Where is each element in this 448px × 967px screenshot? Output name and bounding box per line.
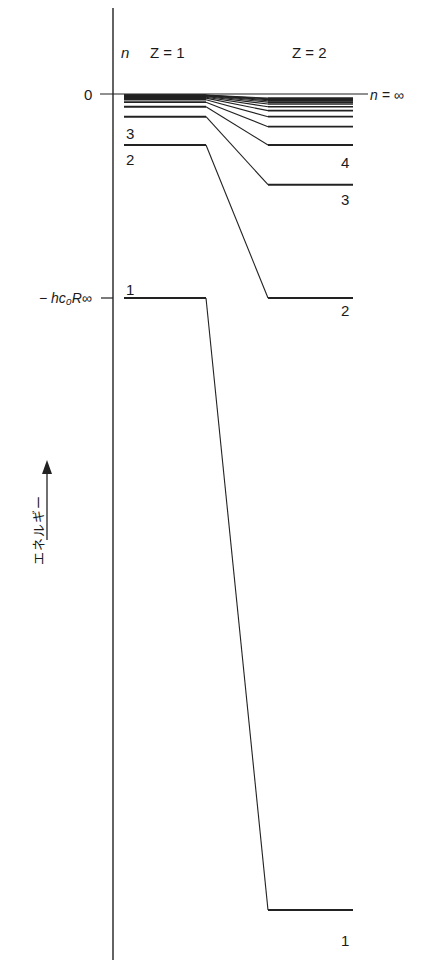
correlation-line bbox=[206, 145, 268, 298]
z1-level-3-label: 3 bbox=[126, 126, 134, 141]
energy-arrow-head bbox=[42, 460, 52, 474]
z2-level-3-label: 3 bbox=[341, 192, 349, 207]
z2-level-2-label: 2 bbox=[341, 303, 349, 318]
correlation-line bbox=[206, 298, 268, 910]
n-header: n bbox=[121, 45, 129, 60]
infinity-label: n = ∞ bbox=[370, 88, 404, 102]
z2-header: Z = 2 bbox=[292, 45, 327, 60]
zero-label: 0 bbox=[84, 87, 92, 102]
level-lines bbox=[124, 95, 353, 910]
correlation-line bbox=[206, 107, 268, 145]
z1-level-2-label: 2 bbox=[126, 152, 134, 167]
energy-level-diagram bbox=[0, 0, 448, 967]
correlation-line bbox=[206, 117, 268, 185]
z2-level-1-label: 1 bbox=[341, 933, 349, 948]
hcR-label: − hc₀R∞ bbox=[39, 291, 92, 305]
z1-level-1-label: 1 bbox=[126, 282, 134, 297]
z2-level-4-label: 4 bbox=[341, 155, 349, 170]
energy-axis-label: エネルギー bbox=[28, 495, 47, 565]
z1-header: Z = 1 bbox=[150, 45, 185, 60]
